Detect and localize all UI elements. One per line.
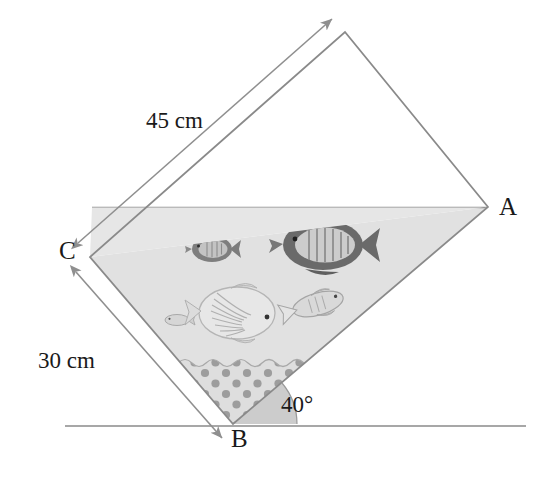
vertex-label-c: C (59, 238, 76, 263)
geometry-figure (0, 0, 544, 481)
vertex-label-a: A (499, 194, 517, 219)
vertex-label-b: B (231, 426, 248, 451)
dimension-label-45cm: 45 cm (146, 109, 203, 132)
dimension-label-30cm: 30 cm (38, 349, 95, 372)
figure-canvas: A B C 45 cm 30 cm 40° (0, 0, 544, 481)
angle-label-40deg: 40° (281, 393, 313, 416)
